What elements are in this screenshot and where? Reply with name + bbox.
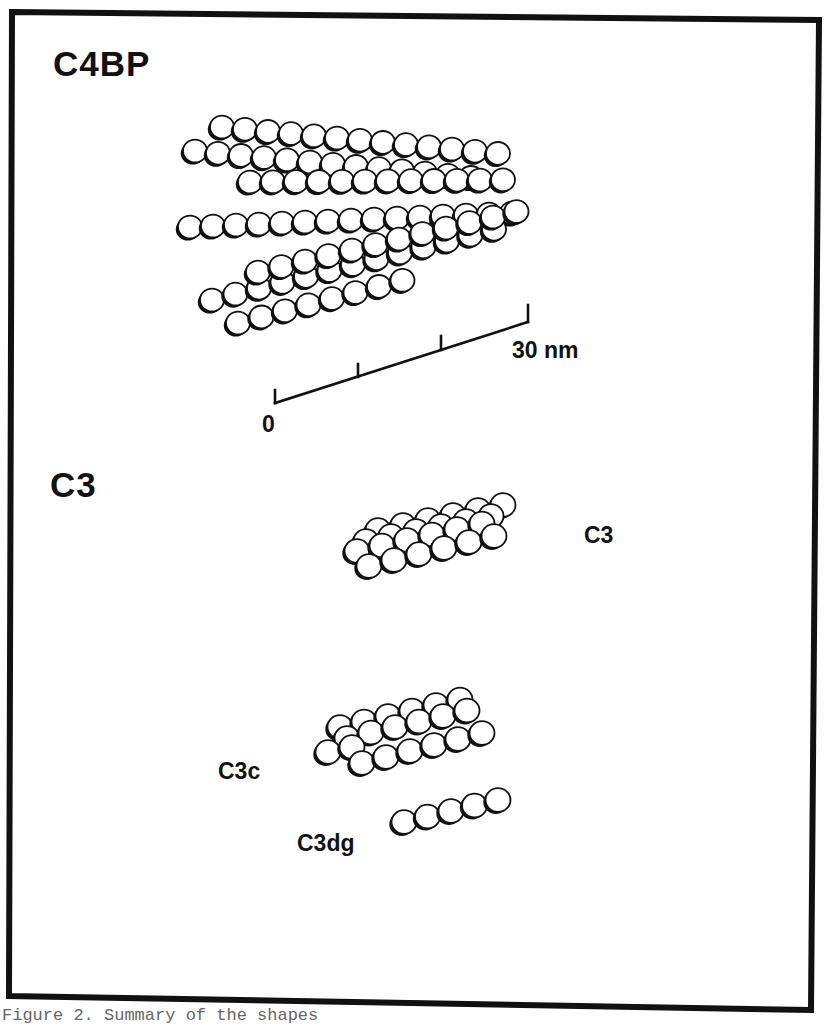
molecule-label-c3dg: C3dg	[297, 830, 355, 857]
molecule-label-c3: C3	[584, 522, 613, 549]
molecule-label-c3c: C3c	[218, 758, 260, 785]
figure-caption: Figure 2. Summary of the shapes	[2, 1006, 318, 1025]
panel-title-c4bp: C4BP	[53, 44, 150, 84]
figure-frame	[9, 12, 819, 1010]
sphere-models	[176, 116, 529, 836]
scale-start-label: 0	[262, 411, 275, 438]
panel-title-c3: C3	[50, 465, 97, 505]
scale-end-label: 30 nm	[512, 337, 578, 364]
scale-bar	[275, 305, 528, 403]
